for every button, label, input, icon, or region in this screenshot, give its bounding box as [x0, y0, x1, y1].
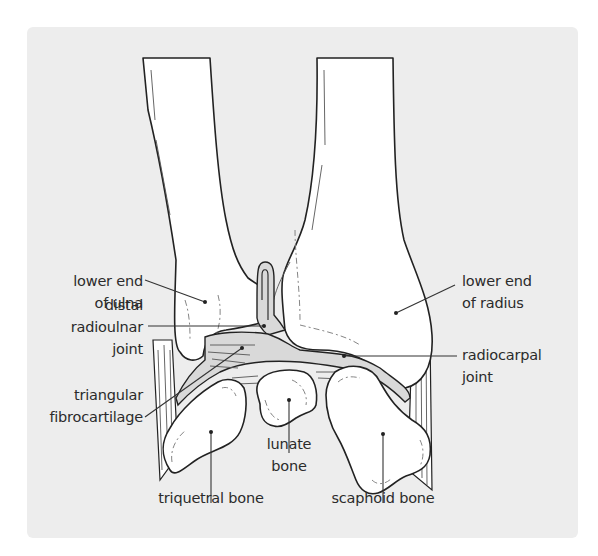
label-line: lower end: [462, 270, 532, 292]
label-line: triangular: [49, 384, 143, 406]
label-line: radiocarpal: [462, 344, 542, 366]
label-lunate-bone: lunate bone: [249, 433, 329, 477]
label-radiocarpal-joint: radiocarpal joint: [462, 344, 542, 388]
label-line: triquetral bone: [146, 487, 276, 509]
label-triquetral-bone: triquetral bone: [146, 487, 276, 509]
label-line: fibrocartilage: [49, 406, 143, 428]
label-line: distal: [71, 294, 143, 316]
label-lower-end-of-radius: lower end of radius: [462, 270, 532, 314]
distal-radioulnar-joint-capsule: [257, 262, 285, 335]
label-line: joint: [462, 366, 542, 388]
label-line: lower end: [73, 270, 143, 292]
lunate-bone: [257, 370, 317, 426]
label-line: bone: [249, 455, 329, 477]
label-line: radioulnar: [71, 316, 143, 338]
label-line: scaphoid bone: [318, 487, 448, 509]
ulna-bone: [143, 58, 264, 360]
label-distal-radioulnar-joint: distal radioulnar joint: [71, 294, 143, 360]
label-line: of radius: [462, 292, 532, 314]
triquetral-bone: [163, 380, 246, 473]
label-line: joint: [71, 338, 143, 360]
label-triangular-fibrocartilage: triangular fibrocartilage: [49, 384, 143, 428]
label-line: lunate: [249, 433, 329, 455]
radius-bone: [282, 58, 432, 388]
label-scaphoid-bone: scaphoid bone: [318, 487, 448, 509]
